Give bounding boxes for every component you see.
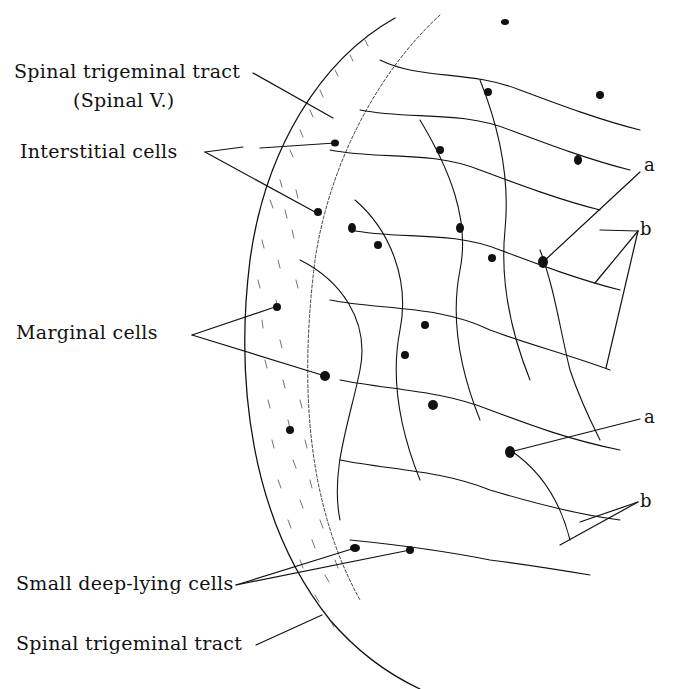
- diagram-canvas: Spinal trigeminal tract (Spinal V.) Inte…: [0, 0, 674, 689]
- label-spinal-trigeminal-tract-bottom: Spinal trigeminal tract: [16, 634, 242, 653]
- inner-boundary: [308, 15, 440, 600]
- outer-boundary: [245, 18, 420, 689]
- label-a-lower: a: [644, 408, 655, 426]
- label-spinal-v: (Spinal V.): [73, 91, 175, 110]
- label-b-upper: b: [640, 220, 652, 238]
- label-marginal-cells: Marginal cells: [16, 323, 158, 342]
- cell-bodies: [273, 19, 604, 554]
- label-small-deep-lying-cells: Small deep-lying cells: [16, 574, 234, 593]
- label-spinal-trigeminal-tract-top: Spinal trigeminal tract: [14, 62, 240, 81]
- label-interstitial-cells: Interstitial cells: [20, 142, 178, 161]
- label-b-lower: b: [640, 492, 652, 510]
- label-a-upper: a: [644, 156, 655, 174]
